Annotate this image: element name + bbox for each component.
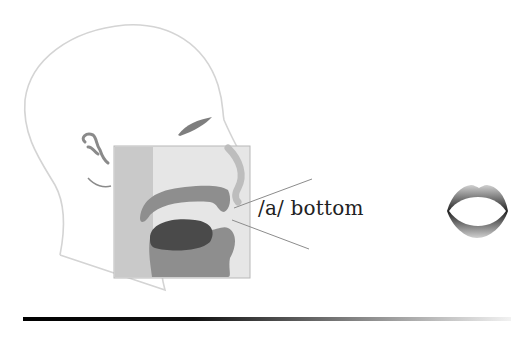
- head-illustration: [0, 0, 531, 342]
- vowel-diagram: /a/ bottom: [0, 0, 531, 342]
- phoneme-label: /a/ bottom: [258, 196, 364, 220]
- eye-icon: [178, 117, 212, 136]
- lips-icon: [447, 185, 508, 238]
- ear-icon: [83, 134, 108, 163]
- divider-rule: [23, 317, 511, 321]
